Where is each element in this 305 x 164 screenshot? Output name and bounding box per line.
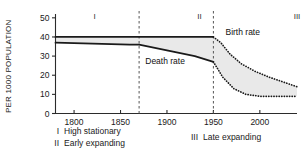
y-tick-label: 0 <box>45 109 50 119</box>
x-tick-label: 1900 <box>158 117 177 127</box>
legend-label-1: High stationary <box>64 126 121 136</box>
y-tick-label: 30 <box>40 51 50 61</box>
stage-three-marker: III <box>294 12 301 21</box>
x-axis-ticks: 18001850190019502000 <box>65 110 270 127</box>
legend-marker-3: III <box>191 132 198 142</box>
legend-label-2: Early expanding <box>64 138 125 148</box>
x-tick-label: 1800 <box>65 117 84 127</box>
stage-one-marker: I <box>93 12 95 21</box>
birth-rate-label: Birth rate <box>225 27 260 37</box>
y-tick-label: 50 <box>40 13 50 23</box>
y-axis-title: PER 1000 POPULATION <box>4 20 13 113</box>
y-tick-label: 10 <box>40 89 50 99</box>
y-tick-label: 20 <box>40 70 50 80</box>
death-rate-label: Death rate <box>145 56 185 66</box>
x-tick-label: 1950 <box>204 117 223 127</box>
x-tick-label: 2000 <box>250 117 269 127</box>
stage-two-marker: II <box>197 12 201 21</box>
legend-marker-1: I <box>57 126 59 136</box>
legend-marker-2: II <box>54 138 59 148</box>
demographic-transition-chart: 01020304050 18001850190019502000 PER 100… <box>0 0 305 164</box>
chart-canvas: 01020304050 18001850190019502000 PER 100… <box>0 0 305 164</box>
y-tick-label: 40 <box>40 32 50 42</box>
natural-increase-band <box>56 37 298 96</box>
legend-label-3: Late expanding <box>203 132 261 142</box>
x-tick-label: 1850 <box>111 117 130 127</box>
y-axis-ticks: 01020304050 <box>40 13 55 119</box>
